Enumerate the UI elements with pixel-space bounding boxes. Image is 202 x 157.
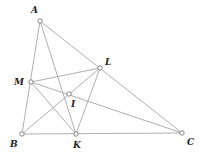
triangle-diagram: ABCKLMI [0, 0, 202, 157]
point-m [29, 80, 33, 84]
point-a [38, 19, 42, 23]
label-a: A [30, 5, 38, 15]
point-b [20, 132, 24, 136]
segment-ac [40, 21, 182, 133]
segment-ak [40, 21, 76, 134]
label-m: M [13, 77, 25, 87]
label-b: B [9, 139, 18, 149]
point-c [180, 131, 184, 135]
label-k: K [72, 140, 82, 150]
segment-ab [22, 21, 40, 134]
point-k [74, 132, 78, 136]
segments-group [22, 21, 182, 134]
point-i [67, 92, 71, 96]
label-i: I [70, 99, 76, 109]
segment-bc [22, 133, 182, 134]
points-group [20, 19, 184, 136]
point-l [98, 66, 102, 70]
label-l: L [104, 57, 111, 67]
label-c: C [187, 137, 195, 147]
segment-ml [31, 68, 100, 82]
